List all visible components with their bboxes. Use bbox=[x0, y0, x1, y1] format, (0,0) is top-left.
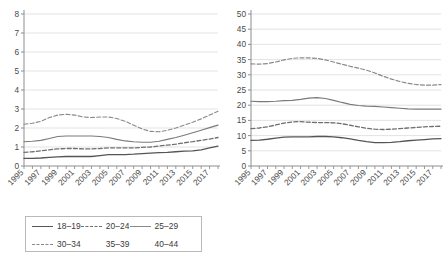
svg-text:2009: 2009 bbox=[123, 167, 143, 186]
legend-label: 20–24 bbox=[106, 221, 130, 231]
svg-text:2015: 2015 bbox=[174, 167, 194, 186]
svg-text:2007: 2007 bbox=[107, 167, 127, 186]
svg-text:3: 3 bbox=[14, 104, 19, 114]
svg-text:30: 30 bbox=[237, 70, 247, 80]
svg-text:5: 5 bbox=[241, 146, 246, 156]
legend-item-20-24: 20–24 bbox=[81, 217, 130, 235]
svg-text:1995: 1995 bbox=[5, 167, 25, 186]
svg-text:8: 8 bbox=[14, 9, 19, 19]
legend-label: 40–44 bbox=[155, 239, 179, 249]
svg-text:1997: 1997 bbox=[249, 167, 269, 186]
legend-row: 30–3435–3940–44 bbox=[26, 235, 201, 253]
svg-text:2017: 2017 bbox=[191, 167, 211, 186]
svg-text:1999: 1999 bbox=[265, 167, 285, 186]
chart-panel-right: 0510152025303540455019951997199920012003… bbox=[223, 0, 445, 266]
series-line-55-59 bbox=[251, 98, 441, 110]
legend-label: 18–19 bbox=[57, 221, 81, 231]
legend-label: 25–29 bbox=[155, 221, 179, 231]
legend-label: 30–34 bbox=[57, 239, 81, 249]
svg-text:1: 1 bbox=[14, 142, 19, 152]
svg-text:2009: 2009 bbox=[348, 167, 368, 186]
legend-row: 18–1920–2425–29 bbox=[26, 217, 201, 235]
svg-text:4: 4 bbox=[14, 85, 19, 95]
svg-text:6: 6 bbox=[14, 47, 19, 57]
svg-text:2013: 2013 bbox=[157, 167, 177, 186]
series-line-45-49 bbox=[251, 137, 441, 143]
series-line-60-64 bbox=[251, 58, 441, 85]
svg-text:15: 15 bbox=[237, 115, 247, 125]
svg-text:40: 40 bbox=[237, 39, 247, 49]
svg-text:2007: 2007 bbox=[331, 167, 351, 186]
svg-text:2005: 2005 bbox=[315, 167, 335, 186]
legend-item-25-29: 25–29 bbox=[130, 217, 179, 235]
legend-swatch-icon bbox=[32, 221, 53, 231]
svg-text:1995: 1995 bbox=[232, 167, 252, 186]
svg-text:2001: 2001 bbox=[56, 167, 76, 186]
svg-text:2011: 2011 bbox=[141, 167, 161, 186]
legend-item-18-19: 18–19 bbox=[32, 217, 81, 235]
svg-text:35: 35 bbox=[237, 55, 247, 65]
svg-text:2017: 2017 bbox=[414, 167, 434, 186]
svg-text:2003: 2003 bbox=[298, 167, 318, 186]
legend-item-40-44: 40–44 bbox=[130, 235, 179, 253]
svg-text:2003: 2003 bbox=[73, 167, 93, 186]
svg-text:20: 20 bbox=[237, 100, 247, 110]
series-line-50-54 bbox=[251, 122, 441, 130]
svg-text:2013: 2013 bbox=[381, 167, 401, 186]
legend-item-30-34: 30–34 bbox=[32, 235, 81, 253]
legend-swatch-icon bbox=[81, 221, 102, 231]
svg-text:2: 2 bbox=[14, 123, 19, 133]
series-line-30-34 bbox=[24, 111, 218, 132]
svg-text:45: 45 bbox=[237, 24, 247, 34]
svg-text:10: 10 bbox=[237, 131, 247, 141]
legend-left: 18–1920–2425–29 30–3435–3940–44 bbox=[25, 216, 202, 252]
legend-label: 35–39 bbox=[106, 239, 130, 249]
legend-swatch-icon bbox=[130, 221, 151, 231]
legend-swatch-icon bbox=[81, 239, 102, 249]
svg-text:2011: 2011 bbox=[365, 167, 385, 186]
chart-page: 0123456781995199719992001200320052007200… bbox=[0, 0, 445, 266]
plot-area-right: 0510152025303540455019951997199920012003… bbox=[223, 4, 445, 186]
svg-text:25: 25 bbox=[237, 85, 247, 95]
legend-swatch-icon bbox=[32, 239, 53, 249]
svg-text:2001: 2001 bbox=[282, 167, 302, 186]
svg-text:50: 50 bbox=[237, 9, 247, 19]
svg-text:2005: 2005 bbox=[90, 167, 110, 186]
svg-text:7: 7 bbox=[14, 28, 19, 38]
svg-text:5: 5 bbox=[14, 66, 19, 76]
svg-text:2015: 2015 bbox=[398, 167, 418, 186]
chart-panel-left: 0123456781995199719992001200320052007200… bbox=[0, 0, 222, 266]
line-chart-right: 0510152025303540455019951997199920012003… bbox=[223, 4, 445, 186]
plot-area-left: 0123456781995199719992001200320052007200… bbox=[0, 4, 222, 186]
svg-text:1997: 1997 bbox=[22, 167, 42, 186]
legend-swatch-icon bbox=[130, 239, 151, 249]
svg-text:1999: 1999 bbox=[39, 167, 59, 186]
line-chart-left: 0123456781995199719992001200320052007200… bbox=[0, 4, 222, 186]
legend-item-35-39: 35–39 bbox=[81, 235, 130, 253]
